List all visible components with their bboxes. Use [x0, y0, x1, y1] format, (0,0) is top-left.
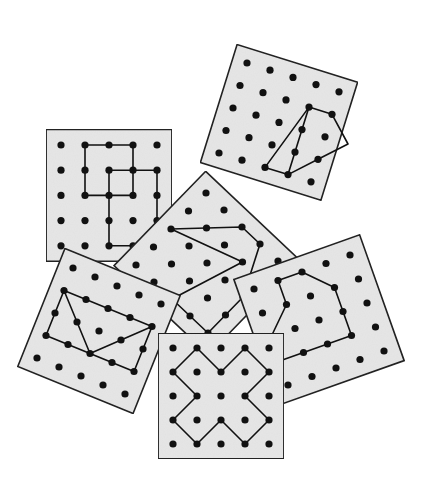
peg-dot [193, 344, 200, 351]
peg-dot [243, 59, 250, 66]
peg-dot [105, 242, 112, 249]
peg-dot [126, 314, 133, 321]
peg-dot [86, 350, 93, 357]
peg-dot [252, 112, 259, 119]
peg-dot [55, 363, 62, 370]
peg-dot [105, 192, 112, 199]
peg-dot [328, 111, 335, 118]
peg-dot [186, 312, 193, 319]
peg-dot [81, 167, 88, 174]
peg-dot [77, 372, 84, 379]
peg-dot [268, 141, 275, 148]
peg-dot [82, 296, 89, 303]
peg-dot [241, 392, 248, 399]
peg-dot [217, 440, 224, 447]
peg-dot [42, 332, 49, 339]
peg-dot [322, 260, 329, 267]
peg-dot [132, 261, 139, 268]
peg-dot [220, 206, 227, 213]
peg-dot [307, 292, 314, 299]
peg-dot [186, 277, 193, 284]
peg-dot [215, 149, 222, 156]
peg-dot [339, 308, 346, 315]
peg-dot [153, 141, 160, 148]
peg-dot [308, 373, 315, 380]
peg-dot [284, 171, 291, 178]
peg-dot [315, 316, 322, 323]
peg-dot [222, 127, 229, 134]
peg-dot [307, 178, 314, 185]
peg-dot [259, 309, 266, 316]
peg-dot [169, 344, 176, 351]
peg-dot [64, 341, 71, 348]
peg-dot [193, 392, 200, 399]
peg-dot [284, 381, 291, 388]
peg-dot [298, 268, 305, 275]
peg-dot [300, 349, 307, 356]
peg-dot [167, 225, 174, 232]
peg-dot [321, 133, 328, 140]
peg-dot [130, 368, 137, 375]
peg-dot [335, 88, 342, 95]
peg-dot [331, 284, 338, 291]
board-a-quadrilateral [200, 45, 357, 201]
peg-dot [289, 74, 296, 81]
peg-dot [60, 287, 67, 294]
peg-dot [229, 104, 236, 111]
peg-dot [314, 156, 321, 163]
peg-dot [169, 440, 176, 447]
peg-dot [217, 416, 224, 423]
peg-dot [57, 141, 64, 148]
peg-dot [241, 344, 248, 351]
peg-dot [217, 368, 224, 375]
peg-dot [129, 217, 136, 224]
peg-dot [91, 273, 98, 280]
peg-dot [324, 340, 331, 347]
peg-dot [356, 356, 363, 363]
peg-dot [355, 275, 362, 282]
boards-layer [18, 45, 404, 459]
peg-dot [57, 192, 64, 199]
peg-dot [266, 67, 273, 74]
peg-dot [291, 325, 298, 332]
peg-dot [275, 119, 282, 126]
peg-dot [129, 192, 136, 199]
geoboard-canvas [0, 0, 426, 490]
peg-dot [81, 242, 88, 249]
peg-dot [129, 141, 136, 148]
peg-dot [57, 167, 64, 174]
peg-dot [332, 364, 339, 371]
peg-dot [238, 157, 245, 164]
peg-dot [282, 96, 289, 103]
peg-dot [169, 368, 176, 375]
peg-dot [348, 332, 355, 339]
peg-dot [193, 368, 200, 375]
peg-dot [148, 323, 155, 330]
peg-dot [129, 167, 136, 174]
peg-dot [265, 368, 272, 375]
peg-dot [69, 264, 76, 271]
peg-dot [153, 192, 160, 199]
peg-dot [57, 242, 64, 249]
peg-dot [117, 336, 124, 343]
peg-dot [81, 217, 88, 224]
peg-dot [204, 294, 211, 301]
peg-dot [81, 141, 88, 148]
peg-dot [256, 240, 263, 247]
peg-dot [135, 291, 142, 298]
peg-dot [185, 242, 192, 249]
peg-dot [265, 344, 272, 351]
peg-dot [121, 390, 128, 397]
peg-dot [265, 440, 272, 447]
peg-dot [241, 416, 248, 423]
peg-dot [265, 392, 272, 399]
peg-dot [239, 258, 246, 265]
peg-dot [221, 276, 228, 283]
peg-dot [222, 311, 229, 318]
peg-dot [221, 241, 228, 248]
peg-dot [57, 217, 64, 224]
peg-dot [108, 359, 115, 366]
peg-dot [81, 192, 88, 199]
peg-dot [217, 344, 224, 351]
peg-dot [153, 167, 160, 174]
